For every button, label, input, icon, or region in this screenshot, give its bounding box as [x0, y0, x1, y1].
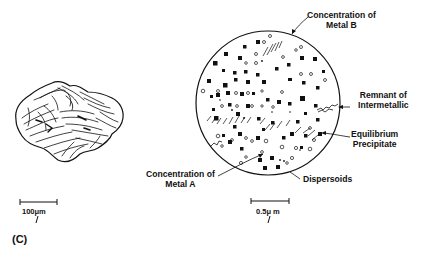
intermetallic-remnant — [211, 104, 338, 146]
dispersoid-dots — [219, 60, 301, 162]
label-precipitate: Equilibrium Precipitate — [351, 130, 398, 149]
scale-label-0-5um: 0.5μ m — [256, 207, 280, 216]
microstructure-circle — [196, 17, 350, 179]
precipitate-particles — [207, 40, 325, 170]
label-dispersoids: Dispersoids — [303, 175, 352, 185]
diagram-canvas — [0, 0, 430, 254]
particle-blob — [16, 82, 123, 162]
panel-label: (C) — [12, 233, 27, 245]
concentration-streaks — [207, 41, 318, 140]
label-intermetallic: Remnant of Intermetallic — [358, 91, 409, 110]
label-metal-a: Concentration of Metal A — [146, 170, 215, 189]
label-metal-b: Concentration of Metal B — [307, 11, 376, 30]
scale-label-100um: 100μm — [22, 207, 46, 216]
leader-lines — [218, 17, 350, 179]
